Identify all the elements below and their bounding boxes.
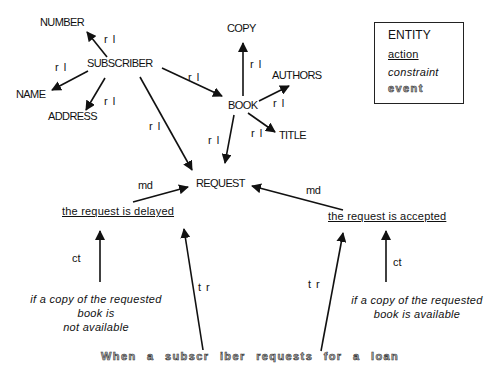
rel-label-book: r l (188, 72, 200, 83)
rel-label-number: r l (104, 34, 116, 45)
legend-entity: ENTITY (388, 29, 431, 41)
rel-label-authors: r l (273, 98, 285, 109)
rel-label-copy: r l (250, 59, 262, 70)
rel-label-md-delayed: md (138, 180, 152, 191)
constraint-not-available: if a copy of the requested book is not a… (26, 293, 166, 334)
legend-action: action (388, 49, 419, 60)
rel-label-tr-delayed: t r (198, 282, 211, 293)
rel-label-tr-accepted: t r (308, 279, 321, 290)
constraint-available: if a copy of the requested book is avail… (347, 294, 487, 322)
edge-event-accepted (321, 233, 343, 351)
legend-box: ENTITY action constraint event (374, 22, 464, 104)
legend-constraint: constraint (388, 66, 439, 80)
constraint-not-available-line2: book is (26, 307, 166, 321)
constraint-available-line1: if a copy of the requested (347, 294, 487, 308)
legend-event: event (388, 83, 424, 94)
entity-authors: AUTHORS (272, 70, 322, 81)
edge-subscriber-name (52, 71, 88, 90)
rel-label-title: r l (251, 128, 263, 139)
entity-copy: COPY (227, 23, 256, 34)
rel-label-address: r l (104, 96, 116, 107)
entity-request: REQUEST (196, 178, 245, 189)
entity-number: NUMBER (40, 17, 84, 28)
event-subscriber-requests-loan: When a subscr iber requests for a loan (101, 351, 399, 362)
edge-subscriber-address (86, 78, 105, 110)
action-request-accepted: the request is accepted (328, 211, 446, 222)
rel-label-ct-accepted: ct (393, 257, 402, 268)
edge-book-request (225, 115, 234, 163)
rel-label-request-sub: r l (149, 121, 161, 132)
rel-label-md-accepted: md (306, 185, 320, 196)
action-request-delayed: the request is delayed (62, 206, 174, 217)
edge-accepted-request (252, 186, 343, 210)
entity-book: BOOK (228, 100, 257, 111)
rel-label-ct-delayed: ct (72, 253, 81, 264)
constraint-not-available-line3: not available (26, 321, 166, 335)
edge-subscriber-request (140, 77, 192, 170)
entity-name: NAME (16, 89, 45, 100)
rel-label-request-book: r l (208, 135, 220, 146)
rel-label-name: r l (55, 62, 67, 73)
constraint-available-line2: book is available (347, 308, 487, 322)
entity-address: ADDRESS (48, 111, 97, 122)
entity-title: TITLE (279, 130, 306, 141)
entity-subscriber: SUBSCRIBER (87, 58, 153, 69)
constraint-not-available-line1: if a copy of the requested (26, 293, 166, 307)
